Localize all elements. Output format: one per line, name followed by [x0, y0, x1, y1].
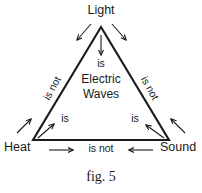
center-label-electric-waves: Electric Waves [81, 72, 120, 101]
figure-trinity-diagram: Light Heat Sound Electric Waves is is is… [0, 0, 202, 193]
arrow-sound-to-light [171, 119, 185, 133]
relation-label-heat-is: is [61, 113, 69, 124]
vertex-label-sound: Sound [160, 141, 196, 154]
relation-label-sound-is: is [131, 113, 139, 124]
vertex-label-light: Light [87, 4, 114, 17]
arrow-light-to-heat [77, 24, 91, 40]
vertex-label-heat: Heat [4, 141, 30, 154]
arrow-light-to-sound [112, 24, 126, 40]
center-label-line-2: Waves [81, 87, 120, 102]
center-label-line-1: Electric [81, 72, 120, 87]
arrow-heat-to-light [17, 119, 31, 133]
relation-label-heat-sound-is-not: is not [88, 143, 113, 154]
relation-label-light-is: is [97, 58, 105, 69]
figure-caption: fig. 5 [86, 170, 116, 184]
